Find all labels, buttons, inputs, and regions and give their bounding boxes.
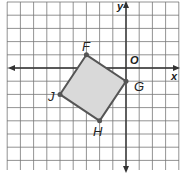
- y-axis-down-arrow-icon: [123, 166, 129, 173]
- x-axis-left-arrow-icon: [8, 65, 15, 71]
- origin-label: O: [130, 54, 139, 66]
- square-fghj: [60, 55, 126, 121]
- vertex-point-j: [58, 92, 63, 97]
- coordinate-plane: y x O F G H J: [0, 0, 183, 181]
- y-axis-label: y: [116, 0, 124, 12]
- vertex-label-g: G: [134, 79, 144, 94]
- vertex-point-h: [97, 118, 102, 123]
- vertex-label-h: H: [93, 124, 103, 139]
- vertex-label-f: F: [82, 39, 91, 54]
- x-axis-label: x: [170, 70, 178, 82]
- vertex-point-g: [124, 79, 129, 84]
- vertex-label-j: J: [47, 89, 55, 104]
